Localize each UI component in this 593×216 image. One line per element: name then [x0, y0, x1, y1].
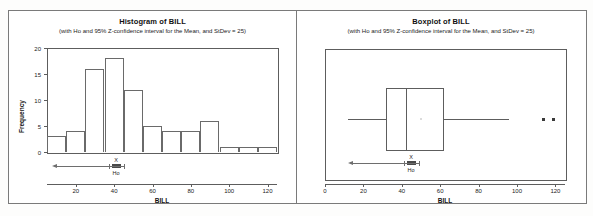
histogram-xmark-100 [229, 184, 230, 187]
histogram-ytick-20: 20 [21, 46, 41, 52]
boxplot-panel: Boxplot of BILL (with Ho and 95% Z-confi… [297, 11, 585, 203]
boxplot-xtick-120: 120 [543, 188, 567, 194]
histogram-title: Histogram of BILL [9, 17, 296, 26]
histogram-ho-arrow-head [52, 164, 57, 168]
boxplot-plot-frame [325, 49, 567, 181]
histogram-panel: Histogram of BILL (with Ho and 95% Z-con… [9, 11, 297, 203]
histogram-ytick-5: 5 [21, 124, 41, 130]
boxplot-ho-label: Ho [404, 167, 418, 173]
boxplot-xmark-0 [325, 184, 326, 187]
boxplot-mean-dot [420, 118, 422, 120]
histogram-xtick-20: 20 [64, 188, 88, 194]
boxplot-ho-arrow-head [348, 161, 353, 165]
histogram-subtitle: (with Ho and 95% Z-confidence interval f… [9, 28, 296, 34]
histogram-bar [143, 126, 162, 152]
histogram-bar [239, 147, 258, 152]
boxplot-xtick-100: 100 [505, 188, 529, 194]
histogram-bar [124, 90, 143, 152]
histogram-bar [66, 131, 85, 152]
boxplot-xmark-60 [440, 184, 441, 187]
boxplot-x-axis-line [325, 184, 565, 185]
boxplot-xtick-0: 0 [313, 188, 337, 194]
histogram-bar [162, 131, 181, 152]
histogram-bar [200, 121, 219, 152]
boxplot-box [386, 88, 444, 151]
histogram-bar [258, 147, 277, 152]
boxplot-xmark-80 [479, 184, 480, 187]
boxplot-x-axis-title: BILL [325, 197, 565, 204]
boxplot-title: Boxplot of BILL [297, 17, 585, 26]
histogram-xmark-60 [153, 184, 154, 187]
histogram-xmark-20 [76, 184, 77, 187]
histogram-xtick-80: 80 [179, 188, 203, 194]
figure-sheet: Histogram of BILL (with Ho and 95% Z-con… [0, 0, 593, 216]
figure-panels: Histogram of BILL (with Ho and 95% Z-con… [8, 10, 587, 204]
boxplot-outlier-point [552, 118, 555, 121]
boxplot-xtick-40: 40 [390, 188, 414, 194]
histogram-xmark-80 [191, 184, 192, 187]
histogram-mean-label: X [109, 157, 123, 163]
boxplot-right-whisker [444, 119, 509, 120]
histogram-bar [47, 136, 66, 152]
histogram-xmark-40 [114, 184, 115, 187]
histogram-x-axis-title: BILL [47, 197, 277, 204]
boxplot-left-whisker [348, 119, 386, 120]
boxplot-xtick-80: 80 [467, 188, 491, 194]
histogram-xtick-120: 120 [256, 188, 280, 194]
histogram-xtick-40: 40 [102, 188, 126, 194]
histogram-ho-label: Ho [109, 170, 123, 176]
histogram-xmark-120 [268, 184, 269, 187]
boxplot-xtick-20: 20 [351, 188, 375, 194]
histogram-bar [220, 147, 239, 152]
histogram-xtick-100: 100 [217, 188, 241, 194]
boxplot-xmark-120 [555, 184, 556, 187]
boxplot-ci-line [404, 163, 420, 164]
histogram-ytick-15: 15 [21, 72, 41, 78]
histogram-bar [105, 58, 124, 152]
boxplot-xmark-20 [363, 184, 364, 187]
boxplot-median-line [406, 88, 407, 151]
histogram-ytick-0: 0 [21, 150, 41, 156]
histogram-x-axis-line [47, 184, 277, 185]
histogram-xtick-60: 60 [141, 188, 165, 194]
boxplot-xtick-60: 60 [428, 188, 452, 194]
histogram-bar [85, 69, 104, 152]
histogram-bar [181, 131, 200, 152]
boxplot-xmark-40 [402, 184, 403, 187]
boxplot-xmark-100 [517, 184, 518, 187]
boxplot-outlier-point [542, 118, 545, 121]
boxplot-subtitle: (with Ho and 95% Z-confidence interval f… [297, 28, 585, 34]
boxplot-mean-label: X [404, 154, 418, 160]
histogram-ytick-10: 10 [21, 98, 41, 104]
histogram-ci-line [109, 166, 125, 167]
